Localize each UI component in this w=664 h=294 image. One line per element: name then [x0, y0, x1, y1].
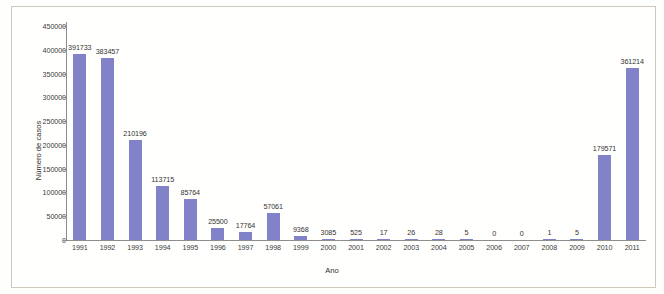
- y-tick-mark: [63, 50, 66, 51]
- x-tick-label: 1997: [238, 243, 254, 252]
- x-tick-label: 1999: [293, 243, 309, 252]
- x-tick-label: 2004: [431, 243, 447, 252]
- bar-value-label: 5: [465, 228, 469, 237]
- bar: [322, 239, 335, 240]
- bar: [543, 239, 556, 240]
- x-tick-label: 2010: [597, 243, 613, 252]
- y-tick-mark: [63, 192, 66, 193]
- y-tick-mark: [63, 26, 66, 27]
- bar: [570, 239, 583, 240]
- y-axis-title: Número de casos: [34, 91, 43, 211]
- bar-value-label: 28: [435, 228, 443, 237]
- bar: [626, 68, 639, 240]
- bar-value-label: 361214: [620, 57, 643, 66]
- bar: [405, 239, 418, 240]
- bar-value-label: 17: [380, 228, 388, 237]
- bar: [267, 213, 280, 240]
- x-tick-label: 1995: [182, 243, 198, 252]
- bar-value-label: 391733: [68, 43, 91, 52]
- x-tick-label: 1996: [210, 243, 226, 252]
- bar: [460, 239, 473, 240]
- x-tick-label: 1993: [127, 243, 143, 252]
- bar: [294, 236, 307, 240]
- bar: [598, 155, 611, 240]
- bar-value-label: 525: [350, 228, 362, 237]
- y-axis-line: [66, 22, 67, 240]
- x-tick-label: 1994: [155, 243, 171, 252]
- bar-value-label: 113715: [151, 175, 174, 184]
- x-axis-line: [66, 240, 646, 241]
- bar: [239, 232, 252, 240]
- bar-value-label: 1: [547, 228, 551, 237]
- x-tick-label: 2006: [486, 243, 502, 252]
- x-tick-label: 2001: [348, 243, 364, 252]
- bar-value-label: 25500: [208, 217, 228, 226]
- y-tick-mark: [63, 145, 66, 146]
- bar: [156, 186, 169, 240]
- bar-value-label: 5: [575, 228, 579, 237]
- bar: [211, 228, 224, 240]
- bar: [129, 140, 142, 240]
- chart-figure: 0500001000001500002000002500003000003500…: [0, 0, 664, 294]
- x-tick-label: 2007: [514, 243, 530, 252]
- x-tick-label: 1992: [100, 243, 116, 252]
- x-tick-label: 2002: [376, 243, 392, 252]
- bar-value-label: 3085: [321, 228, 337, 237]
- y-tick-mark: [63, 97, 66, 98]
- y-tick-mark: [63, 216, 66, 217]
- x-axis-title: Ano: [0, 266, 664, 275]
- y-axis-ticks: 0500001000001500002000002500003000003500…: [20, 0, 66, 294]
- bar-value-label: 85764: [181, 188, 201, 197]
- y-tick-mark: [63, 74, 66, 75]
- bar-value-label: 179571: [593, 144, 616, 153]
- bar: [432, 239, 445, 240]
- x-tick-label: 2009: [569, 243, 585, 252]
- bar-value-label: 0: [492, 229, 496, 238]
- bar: [350, 239, 363, 240]
- x-tick-label: 2005: [459, 243, 475, 252]
- bar: [73, 54, 86, 240]
- bar: [184, 199, 197, 240]
- bar-value-label: 17764: [236, 221, 256, 230]
- y-tick-mark: [63, 240, 66, 241]
- bar-value-label: 0: [520, 229, 524, 238]
- x-tick-label: 2003: [403, 243, 419, 252]
- x-tick-label: 2008: [542, 243, 558, 252]
- bar-value-label: 9368: [293, 225, 309, 234]
- bar: [101, 58, 114, 240]
- bar: [377, 239, 390, 240]
- y-tick-mark: [63, 121, 66, 122]
- bar-value-label: 383457: [96, 47, 119, 56]
- y-tick-mark: [63, 169, 66, 170]
- x-tick-label: 1998: [265, 243, 281, 252]
- bar-value-label: 57061: [263, 202, 283, 211]
- bar-value-label: 26: [407, 228, 415, 237]
- x-tick-label: 2000: [321, 243, 337, 252]
- x-tick-label: 2011: [625, 243, 640, 252]
- plot-area: 0500001000001500002000002500003000003500…: [0, 0, 664, 294]
- bar-value-label: 210196: [123, 129, 146, 138]
- x-tick-label: 1991: [72, 243, 88, 252]
